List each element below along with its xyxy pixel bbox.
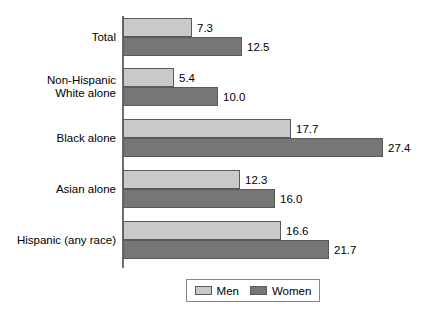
legend-swatch-women-icon xyxy=(250,286,267,295)
bar-women[interactable] xyxy=(123,87,218,106)
bar-men[interactable] xyxy=(123,68,174,87)
category-label-total: Total xyxy=(0,31,116,44)
bar-value-men: 12.3 xyxy=(240,174,267,186)
plot-area: Total 7.3 12.5 Non-Hispanic White alone … xyxy=(0,0,437,270)
bar-value-men: 7.3 xyxy=(192,22,213,34)
bar-value-men: 17.7 xyxy=(291,123,318,135)
category-label-hispanic-any-race: Hispanic (any race) xyxy=(0,234,116,247)
bar-women[interactable] xyxy=(123,37,242,56)
bar-value-women: 16.0 xyxy=(275,193,302,205)
legend-item-women[interactable]: Women xyxy=(250,285,311,297)
bar-value-men: 5.4 xyxy=(174,72,195,84)
bar-men[interactable] xyxy=(123,221,281,240)
legend-label-women: Women xyxy=(272,285,311,297)
bar-chart: Total 7.3 12.5 Non-Hispanic White alone … xyxy=(0,0,437,318)
bar-men[interactable] xyxy=(123,170,240,189)
bar-men[interactable] xyxy=(123,18,192,37)
legend-label-men: Men xyxy=(217,285,239,297)
chart-legend: Men Women xyxy=(186,279,320,302)
bar-value-women: 10.0 xyxy=(218,91,245,103)
bar-women[interactable] xyxy=(123,189,275,208)
bar-value-women: 21.7 xyxy=(329,244,356,256)
bar-value-women: 12.5 xyxy=(242,41,269,53)
bar-women[interactable] xyxy=(123,138,383,157)
bar-value-men: 16.6 xyxy=(281,225,308,237)
bar-men[interactable] xyxy=(123,119,291,138)
category-label-asian-alone: Asian alone xyxy=(0,183,116,196)
legend-swatch-men-icon xyxy=(195,286,212,295)
category-label-non-hispanic-white-alone: Non-Hispanic White alone xyxy=(0,74,116,100)
bar-women[interactable] xyxy=(123,240,329,259)
bar-value-women: 27.4 xyxy=(383,142,410,154)
legend-item-men[interactable]: Men xyxy=(195,285,239,297)
category-label-black-alone: Black alone xyxy=(0,132,116,145)
